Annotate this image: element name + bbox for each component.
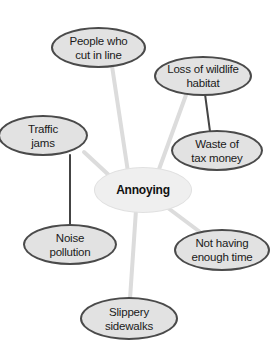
node-not-having-enough-time: Not having enough time: [174, 229, 270, 271]
node-label-line2: cut in line: [69, 48, 127, 62]
link-center-time: [168, 208, 200, 232]
node-noise-pollution: Noise pollution: [23, 224, 117, 265]
node-label-line2: enough time: [191, 250, 252, 264]
node-people-who-cut-in-line: People who cut in line: [51, 27, 146, 68]
node-label-line1: Noise: [49, 231, 90, 245]
node-label-line1: Waste of: [191, 137, 242, 151]
node-label-line2: habitat: [167, 76, 239, 90]
node-label-line2: pollution: [49, 245, 90, 259]
node-slippery-sidewalks: Slippery sidewalks: [80, 297, 178, 340]
node-label-line2: tax money: [191, 151, 242, 165]
node-label-line1: Loss of wildlife: [167, 62, 239, 76]
node-traffic-jams: Traffic jams: [0, 115, 88, 156]
link-center-slippery: [130, 210, 136, 299]
link-center-people: [112, 66, 128, 172]
center-label: Annoying: [116, 183, 170, 197]
node-center-annoying: Annoying: [94, 167, 192, 213]
node-label-line2: sidewalks: [105, 319, 153, 333]
node-loss-of-wildlife-habitat: Loss of wildlife habitat: [154, 56, 252, 96]
node-label-line1: Traffic: [28, 122, 58, 136]
node-label-line1: People who: [69, 34, 127, 48]
node-label-line1: Not having: [191, 236, 252, 250]
node-label-line1: Slippery: [105, 305, 153, 319]
node-waste-of-tax-money: Waste of tax money: [171, 130, 263, 171]
node-label-line2: jams: [28, 136, 58, 150]
